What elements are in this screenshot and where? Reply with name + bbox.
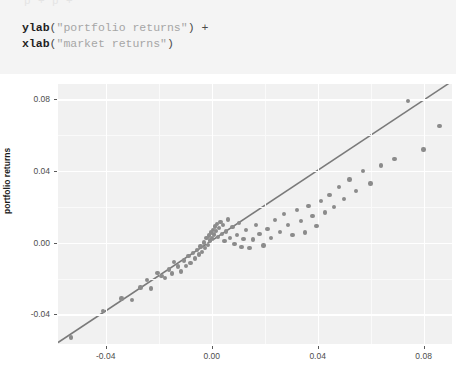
scatter-point bbox=[323, 210, 327, 214]
xlab-close-paren: ) bbox=[167, 37, 174, 50]
scatter-point bbox=[69, 335, 73, 339]
scatter-point bbox=[379, 163, 383, 167]
scatter-point bbox=[230, 225, 234, 229]
code-line-xlab: xlab("market returns") bbox=[22, 36, 456, 52]
scatter-point bbox=[170, 271, 174, 275]
gridline-major-horizontal bbox=[58, 314, 452, 315]
gridline-major-vertical bbox=[212, 84, 213, 344]
y-axis-tick-mark bbox=[54, 171, 57, 172]
gridline-minor-horizontal bbox=[58, 207, 452, 208]
scatter-point bbox=[241, 237, 245, 241]
xlab-function-name: xlab bbox=[22, 37, 50, 50]
xlab-open-paren: ( bbox=[50, 37, 57, 50]
scatter-point bbox=[119, 296, 123, 300]
ylab-close-paren: ) bbox=[188, 21, 195, 34]
gridline-major-horizontal bbox=[58, 243, 452, 244]
y-axis-tick-mark bbox=[54, 99, 57, 100]
y-axis-title: portfolio returns bbox=[2, 148, 12, 214]
x-axis-tick-mark bbox=[212, 346, 213, 349]
regression-line bbox=[58, 84, 452, 344]
scatter-point bbox=[210, 236, 214, 240]
scatter-point bbox=[222, 239, 226, 243]
scatter-point bbox=[265, 227, 269, 231]
scatter-point bbox=[188, 261, 192, 265]
code-block: p + p + ylab("portfolio returns") + xlab… bbox=[0, 0, 456, 74]
gridline-minor-vertical bbox=[371, 84, 372, 344]
ylab-open-paren: ( bbox=[50, 21, 57, 34]
scatter-point bbox=[327, 193, 331, 197]
scatter-point bbox=[392, 157, 396, 161]
gridline-minor-vertical bbox=[159, 84, 160, 344]
ylab-plus-operator: + bbox=[195, 21, 209, 34]
scatter-plot: portfolio returns -0.040.000.040.08-0.04… bbox=[0, 74, 456, 371]
scatter-point bbox=[314, 224, 318, 228]
x-axis-tick-mark bbox=[424, 346, 425, 349]
x-axis-tick-mark bbox=[318, 346, 319, 349]
scatter-point bbox=[179, 269, 183, 273]
gridline-major-horizontal bbox=[58, 171, 452, 172]
x-axis-tick-label: 0.08 bbox=[415, 351, 432, 361]
scatter-point bbox=[303, 230, 307, 234]
x-axis-tick-label: 0.00 bbox=[203, 351, 220, 361]
y-axis-tick-label: 0.04 bbox=[24, 166, 50, 176]
scatter-point bbox=[306, 204, 310, 208]
scatter-point bbox=[310, 214, 314, 218]
scatter-point bbox=[251, 237, 255, 241]
scatter-point bbox=[239, 245, 243, 249]
xlab-string-arg: "market returns" bbox=[57, 37, 167, 50]
y-axis-tick-label: 0.00 bbox=[24, 238, 50, 248]
x-axis-tick-label: -0.04 bbox=[96, 351, 115, 361]
y-axis-tick-mark bbox=[54, 243, 57, 244]
gridline-major-vertical bbox=[106, 84, 107, 344]
y-axis-tick-label: -0.04 bbox=[24, 309, 50, 319]
x-axis-tick-mark bbox=[106, 346, 107, 349]
gridline-minor-horizontal bbox=[58, 279, 452, 280]
y-axis-tick-label: 0.08 bbox=[24, 94, 50, 104]
gridline-major-horizontal bbox=[58, 99, 452, 100]
ylab-string-arg: "portfolio returns" bbox=[57, 21, 188, 34]
scatter-point bbox=[232, 242, 236, 246]
scatter-point bbox=[261, 243, 265, 247]
x-axis-tick-label: 0.04 bbox=[309, 351, 326, 361]
scatter-point bbox=[182, 258, 186, 262]
plot-panel bbox=[58, 84, 452, 344]
code-line-ylab: ylab("portfolio returns") + bbox=[22, 20, 456, 36]
y-axis-tick-mark bbox=[54, 314, 57, 315]
scatter-point bbox=[235, 233, 239, 237]
truncated-code-line-above: p + p + bbox=[24, 0, 73, 7]
gridline-minor-horizontal bbox=[58, 135, 452, 136]
scatter-point bbox=[138, 285, 142, 289]
scatter-point bbox=[257, 232, 261, 236]
scatter-point bbox=[206, 243, 210, 247]
scatter-point bbox=[247, 246, 251, 250]
gridline-major-vertical bbox=[424, 84, 425, 344]
screenshot-root: p + p + ylab("portfolio returns") + xlab… bbox=[0, 0, 456, 371]
gridline-minor-vertical bbox=[265, 84, 266, 344]
scatter-point bbox=[176, 264, 180, 268]
scatter-point bbox=[186, 254, 190, 258]
gridline-major-vertical bbox=[318, 84, 319, 344]
scatter-point bbox=[226, 217, 230, 221]
scatter-point bbox=[347, 177, 351, 181]
ylab-function-name: ylab bbox=[22, 21, 50, 34]
scatter-point bbox=[368, 181, 372, 185]
scatter-point bbox=[421, 147, 425, 151]
